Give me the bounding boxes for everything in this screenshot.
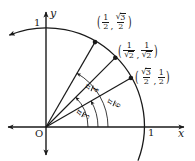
fraction-one-over-sqrt2-y: 1 √2 [141, 42, 153, 61]
paren-close: ) [155, 45, 159, 57]
point-pi-3-dot [93, 40, 98, 45]
radical-3: √3 [116, 13, 126, 22]
paren-open: ( [118, 45, 122, 57]
fraction-one-half: 1 2 [158, 69, 165, 87]
y-axis-label: y [50, 8, 56, 19]
comma: , [153, 77, 156, 87]
origin-label: O [35, 129, 43, 139]
radical-2: √2 [142, 51, 152, 60]
comma: , [136, 51, 139, 61]
radical-3: √3 [141, 68, 151, 77]
paren-open: ( [97, 16, 101, 28]
x-axis-tick-label: 1 [148, 128, 154, 138]
comma: , [110, 22, 113, 32]
unit-circle-figure: x y 1 1 O ( 1 2 , √3 2 ) ( 1 √2 , 1 √2 ) [0, 0, 195, 161]
fraction-sqrt3-over-2: √3 2 [140, 68, 152, 87]
radical-2: √2 [124, 51, 134, 60]
point-pi-4-coordinate-label: ( 1 √2 , 1 √2 ) [117, 42, 159, 61]
paren-close: ) [129, 16, 133, 28]
point-pi-3-coordinate-label: ( 1 2 , √3 2 ) [96, 13, 133, 32]
y-axis-tick-label: 1 [34, 18, 40, 28]
point-pi-6-coordinate-label: ( √3 2 , 1 2 ) [134, 68, 171, 87]
x-axis-label: x [178, 128, 184, 139]
fraction-sqrt3-over-2: √3 2 [115, 13, 127, 32]
paren-open: ( [135, 71, 139, 83]
paren-close: ) [167, 71, 171, 83]
fraction-one-half: 1 2 [102, 14, 109, 32]
point-pi-6-dot [129, 76, 134, 81]
fraction-one-over-sqrt2-x: 1 √2 [123, 42, 135, 61]
